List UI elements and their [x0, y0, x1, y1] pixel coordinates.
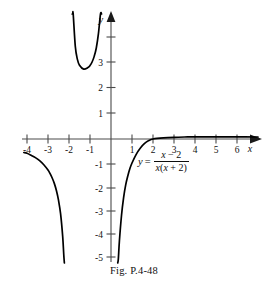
numerator-rest: − 2	[166, 149, 182, 160]
y-tick-label: -1	[95, 160, 103, 170]
y-tick-label: 3	[98, 58, 103, 68]
y-tick-label: -5	[95, 253, 103, 263]
x-axis-label: x	[247, 143, 253, 154]
y-tick-label: 1	[98, 109, 103, 119]
equation-denominator: x(x + 2)	[154, 161, 189, 173]
equation-lhs: y	[138, 156, 143, 167]
equation-fraction: x − 2 x(x + 2)	[154, 150, 189, 174]
denominator-rest: + 2)	[168, 162, 187, 173]
curve-middle-branch	[72, 12, 101, 70]
x-tick-label: 1	[130, 145, 135, 155]
x-tick-label: -3	[44, 145, 52, 155]
y-tick-label: 2	[98, 83, 103, 93]
curve-left-branch	[24, 153, 65, 263]
y-tick-label: -2	[95, 184, 103, 194]
x-tick-label: 5	[214, 145, 219, 155]
x-tick-label: 6	[235, 145, 240, 155]
equation-numerator: x − 2	[159, 150, 183, 161]
y-tick-label: -3	[95, 207, 103, 217]
x-tick-label: -2	[65, 145, 73, 155]
y-tick-label: -4	[95, 230, 103, 240]
graph-plot: -4 -3 -2 -1 1 2 3 4 5 6 3 2 1 -1 -2 -3 -…	[0, 0, 268, 293]
equation-equals: =	[145, 156, 151, 167]
y-axis-arrowhead	[107, 11, 116, 22]
x-tick-label: 4	[193, 145, 198, 155]
x-tick-label: -1	[86, 145, 94, 155]
equation-annotation: y = x − 2 x(x + 2)	[138, 150, 189, 174]
figure-container: -4 -3 -2 -1 1 2 3 4 5 6 3 2 1 -1 -2 -3 -…	[0, 0, 268, 293]
figure-caption: Fig. P.4-48	[0, 265, 268, 276]
